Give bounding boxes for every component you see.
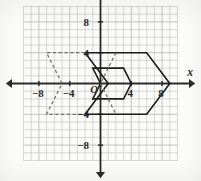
origin-label: O bbox=[90, 84, 98, 95]
y-tick-label-8: 8 bbox=[84, 16, 90, 28]
x-axis-arrow-right bbox=[189, 79, 195, 88]
y-tick-label--4: −4 bbox=[77, 108, 89, 120]
coordinate-plot-svg: −8−44884−4−8Oxy bbox=[0, 0, 201, 181]
coordinate-plane-figure: −8−44884−4−8Oxy bbox=[0, 0, 201, 181]
y-tick-label-4: 4 bbox=[84, 47, 90, 59]
x-axis-arrow-left bbox=[6, 79, 12, 88]
x-tick-label-8: 8 bbox=[158, 87, 164, 99]
y-axis-arrow-down bbox=[96, 172, 105, 178]
x-tick-label--8: −8 bbox=[32, 87, 44, 99]
x-tick-label-4: 4 bbox=[128, 87, 134, 99]
x-tick-label--4: −4 bbox=[63, 87, 75, 99]
y-tick-label--8: −8 bbox=[77, 139, 89, 151]
x-axis-label: x bbox=[186, 66, 193, 78]
